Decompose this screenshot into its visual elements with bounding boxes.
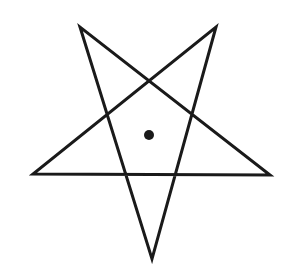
pentagram-star-shape (33, 27, 270, 259)
pentagram-diagram (0, 0, 295, 280)
center-dot (144, 130, 154, 140)
